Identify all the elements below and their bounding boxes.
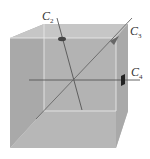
label-c3: C3 xyxy=(130,24,142,40)
cube-right-face xyxy=(116,24,128,148)
label-c4: C4 xyxy=(131,65,143,81)
cube-top-face xyxy=(10,24,128,38)
ellipse-marker-icon xyxy=(58,37,66,41)
cube-front-face xyxy=(10,38,116,148)
label-c2: C2 xyxy=(42,9,54,25)
cube-axes-diagram: C2 C3 C4 xyxy=(0,0,150,159)
square-marker-icon xyxy=(121,74,125,86)
cube xyxy=(10,24,128,148)
